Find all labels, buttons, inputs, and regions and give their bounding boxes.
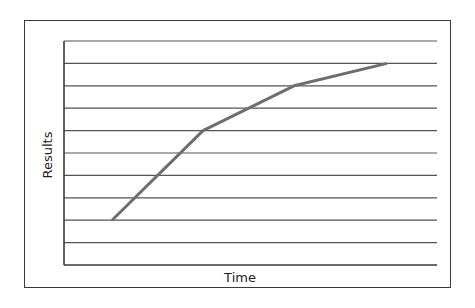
y-axis-label: Results	[40, 132, 55, 179]
results-line	[112, 63, 387, 220]
x-axis-label: Time	[224, 270, 256, 285]
line-chart	[0, 0, 475, 308]
